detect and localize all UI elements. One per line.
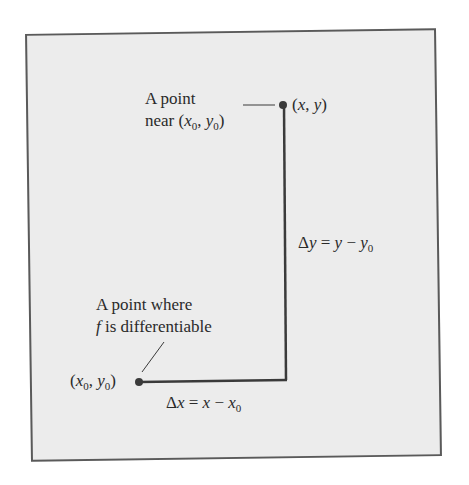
base-point-label: A point where f is differentiable: [96, 294, 212, 338]
base-point-leader-line: [142, 342, 164, 372]
near-point-dot: [279, 101, 287, 109]
near-point-label-line2: near (x0, y0): [145, 110, 224, 132]
delta-y-segment: [284, 105, 286, 380]
base-point-dot: [135, 378, 143, 386]
base-point-coordinates: (x0, y0): [70, 370, 116, 392]
base-point-label-line1: A point where: [96, 294, 212, 316]
near-point-label-line1: A point: [145, 88, 224, 110]
near-point-label: A point near (x0, y0): [145, 88, 224, 132]
near-point-coordinates: (x, y): [292, 94, 327, 116]
base-point-label-line2: f is differentiable: [96, 316, 212, 338]
delta-y-formula: Δy = y − y0: [298, 232, 373, 254]
delta-x-segment: [139, 380, 287, 382]
delta-x-formula: Δx = x − x0: [166, 392, 241, 414]
